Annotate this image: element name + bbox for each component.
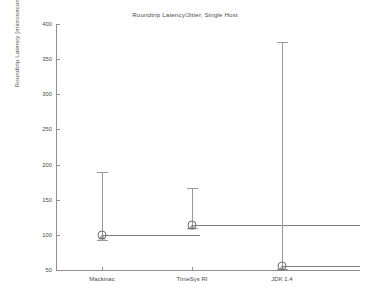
y-tick-mark (57, 200, 60, 201)
y-tick-mark (57, 94, 60, 95)
y-tick-label: 300 (28, 91, 52, 97)
y-tick-label: 350 (28, 56, 52, 62)
x-tick-label: JDK 1.4 (271, 276, 292, 282)
y-tick-label: 100 (28, 232, 52, 238)
y-tick-mark (57, 59, 60, 60)
y-tick-label: 400 (28, 21, 52, 27)
y-axis-label: Roundtrip Latency [microseconds] (13, 0, 20, 104)
chart-title: Roundtrip Latency/Jitter, Single Host (0, 11, 370, 18)
error-bar-cap-top (187, 188, 198, 189)
x-tick-label: Mackinac (89, 276, 114, 282)
x-tick-mark (192, 267, 193, 270)
y-tick-label: 150 (28, 197, 52, 203)
data-point-marker (278, 261, 287, 270)
data-point-marker (98, 230, 107, 239)
chart-figure: Roundtrip Latency/Jitter, Single Host Ro… (0, 0, 370, 299)
y-tick-mark (57, 235, 60, 236)
error-bar-stem (282, 42, 283, 269)
y-tick-label: 200 (28, 162, 52, 168)
error-bar-cap-top (97, 172, 108, 173)
y-tick-label: 250 (28, 126, 52, 132)
y-tick-mark (57, 129, 60, 130)
y-tick-mark (57, 165, 60, 166)
y-tick-mark (57, 24, 60, 25)
y-tick-label: 50 (28, 267, 52, 273)
error-bar-cap-bottom (97, 240, 108, 241)
step-line (282, 266, 360, 267)
x-axis-line (56, 270, 360, 271)
data-point-marker (188, 221, 197, 230)
y-tick-mark (57, 270, 60, 271)
step-line (102, 235, 200, 236)
step-line (192, 225, 360, 226)
x-tick-label: TimeSys RI (177, 276, 208, 282)
error-bar-cap-top (277, 42, 288, 43)
x-tick-mark (102, 267, 103, 270)
